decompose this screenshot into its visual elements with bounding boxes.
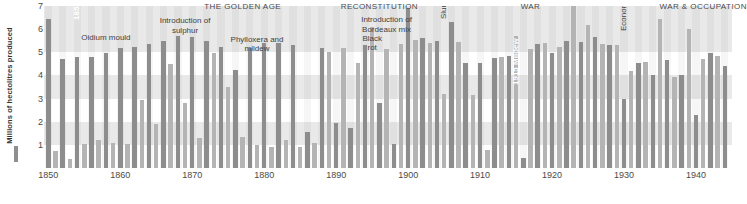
bar[interactable]: [140, 100, 144, 168]
bar[interactable]: [636, 63, 640, 168]
bar[interactable]: [629, 71, 633, 168]
era-header: THE GOLDEN AGE: [204, 2, 281, 11]
bar[interactable]: [262, 43, 266, 168]
bar[interactable]: [363, 45, 367, 168]
bar[interactable]: [82, 144, 86, 168]
bar[interactable]: [435, 41, 439, 168]
bar[interactable]: [413, 40, 417, 168]
bar[interactable]: [183, 103, 187, 168]
event-note-vertical: 1855 Classification of the Médoc: [72, 6, 81, 20]
bar[interactable]: [384, 49, 388, 168]
bar[interactable]: [161, 41, 165, 168]
bar[interactable]: [715, 56, 719, 168]
era-header: WAR & OCCUPATION: [659, 2, 747, 11]
bar[interactable]: [586, 25, 590, 168]
bar[interactable]: [233, 70, 237, 168]
bar[interactable]: [622, 99, 626, 168]
bar[interactable]: [478, 63, 482, 168]
bar[interactable]: [456, 42, 460, 168]
bar[interactable]: [694, 115, 698, 168]
bar[interactable]: [615, 45, 619, 168]
bar[interactable]: [550, 53, 554, 168]
bar[interactable]: [665, 60, 669, 168]
bar[interactable]: [190, 37, 194, 168]
bar[interactable]: [75, 57, 79, 168]
bar[interactable]: [701, 59, 705, 168]
bar[interactable]: [392, 144, 396, 168]
bar[interactable]: [492, 58, 496, 168]
bar[interactable]: [255, 145, 259, 168]
bar[interactable]: [672, 77, 676, 168]
bar[interactable]: [658, 19, 662, 168]
bar[interactable]: [600, 44, 604, 168]
bar[interactable]: [291, 45, 295, 168]
bar[interactable]: [284, 140, 288, 168]
bar[interactable]: [543, 43, 547, 168]
bar[interactable]: [528, 49, 532, 168]
bar[interactable]: [687, 29, 691, 168]
bar[interactable]: [499, 57, 503, 168]
bar[interactable]: [118, 48, 122, 168]
bar[interactable]: [399, 44, 403, 168]
bar[interactable]: [219, 47, 223, 169]
bar[interactable]: [356, 63, 360, 168]
bar[interactable]: [320, 48, 324, 168]
bar[interactable]: [420, 38, 424, 168]
bar[interactable]: [204, 41, 208, 168]
bar[interactable]: [442, 94, 446, 168]
bar[interactable]: [89, 57, 93, 168]
bar[interactable]: [96, 140, 100, 168]
bar[interactable]: [248, 48, 252, 168]
bar[interactable]: [104, 53, 108, 168]
bar[interactable]: [125, 144, 129, 168]
bar[interactable]: [269, 147, 273, 168]
bar[interactable]: [428, 43, 432, 168]
bar[interactable]: [708, 53, 712, 168]
bar[interactable]: [564, 41, 568, 168]
bar[interactable]: [643, 62, 647, 168]
bar[interactable]: [132, 47, 136, 169]
y-axis-tick: 4: [13, 70, 43, 80]
bar[interactable]: [535, 44, 539, 168]
bar[interactable]: [593, 37, 597, 168]
bar[interactable]: [449, 22, 453, 168]
bar[interactable]: [276, 43, 280, 168]
bar[interactable]: [463, 63, 467, 168]
event-note-vertical: Slump: [439, 6, 448, 19]
bar[interactable]: [240, 137, 244, 168]
x-axis-ticks: 1850186018701880189019001910192019301940: [44, 168, 732, 188]
bar[interactable]: [60, 59, 64, 168]
bar[interactable]: [679, 75, 683, 168]
bar[interactable]: [312, 143, 316, 168]
event-note-vertical: 1915 Mildew: [511, 38, 520, 85]
bar[interactable]: [334, 123, 338, 168]
bar[interactable]: [147, 44, 151, 168]
bar[interactable]: [377, 103, 381, 168]
bar[interactable]: [298, 147, 302, 168]
bar[interactable]: [154, 124, 158, 168]
bar[interactable]: [571, 6, 575, 168]
bar[interactable]: [46, 19, 50, 168]
bar[interactable]: [485, 150, 489, 169]
bar[interactable]: [348, 128, 352, 169]
bar[interactable]: [305, 132, 309, 168]
bar[interactable]: [111, 143, 115, 168]
bar[interactable]: [226, 87, 230, 168]
bar[interactable]: [521, 158, 525, 168]
bar[interactable]: [651, 75, 655, 168]
bar[interactable]: [471, 95, 475, 168]
bar[interactable]: [723, 66, 727, 168]
bar[interactable]: [341, 48, 345, 168]
bar[interactable]: [327, 52, 331, 168]
bar[interactable]: [579, 42, 583, 168]
bar[interactable]: [53, 151, 57, 168]
bar[interactable]: [607, 45, 611, 168]
bar[interactable]: [68, 159, 72, 168]
y-axis-tick: 7: [13, 1, 43, 11]
bar[interactable]: [168, 64, 172, 168]
y-axis-tick: 6: [13, 24, 43, 34]
bar[interactable]: [212, 53, 216, 168]
bar[interactable]: [557, 47, 561, 169]
bar[interactable]: [176, 36, 180, 168]
bar[interactable]: [197, 138, 201, 168]
